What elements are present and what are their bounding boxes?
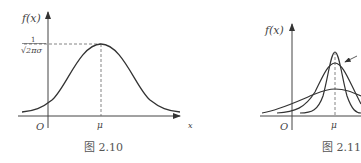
figure-2-10: f(x) 1 √2πσ O μ x 图 2.10 — [18, 12, 193, 154]
callout-arrow — [345, 56, 357, 62]
caption: 图 2.11 — [322, 141, 361, 154]
peak-numerator: 1 — [31, 36, 35, 44]
caption: 图 2.10 — [84, 141, 123, 154]
x-axis-label: x — [188, 121, 193, 130]
figure-2-11: f(x) O μ 图 2.11 — [260, 24, 361, 154]
peak-denominator: √2πσ — [21, 46, 42, 55]
y-axis-label: f(x) — [21, 12, 41, 25]
y-axis-label: f(x) — [264, 24, 284, 37]
origin-label: O — [36, 121, 44, 132]
origin-label: O — [280, 121, 288, 132]
mu-label: μ — [331, 120, 337, 130]
narrow-curve — [300, 52, 361, 113]
figures-canvas: f(x) 1 √2πσ O μ x 图 2.10 f(x) O μ 图 2.11 — [0, 0, 361, 163]
mu-label: μ — [97, 120, 103, 130]
